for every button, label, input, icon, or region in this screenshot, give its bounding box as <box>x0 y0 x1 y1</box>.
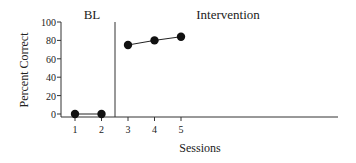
x-axis-title: Sessions <box>179 141 221 155</box>
y-ticks: 020406080100 <box>41 17 61 120</box>
y-tick-label: 60 <box>46 54 56 65</box>
y-tick-label: 0 <box>51 109 56 120</box>
data-point <box>177 33 185 41</box>
phase-label-intervention: Intervention <box>196 7 260 22</box>
data-point <box>97 110 105 118</box>
y-tick-label: 20 <box>46 91 56 102</box>
x-tick-label: 5 <box>179 124 184 135</box>
data-point <box>150 36 158 44</box>
y-axis-title: Percent Correct <box>17 32 31 108</box>
y-tick-label: 40 <box>46 72 56 83</box>
x-tick-label: 1 <box>73 124 78 135</box>
phase-label-baseline: BL <box>84 7 101 22</box>
data-series <box>71 33 185 119</box>
x-ticks: 12345 <box>73 117 184 135</box>
x-tick-label: 3 <box>126 124 131 135</box>
y-tick-label: 100 <box>41 17 56 28</box>
y-tick-label: 80 <box>46 35 56 46</box>
data-point <box>71 110 79 118</box>
x-tick-label: 2 <box>99 124 104 135</box>
data-point <box>124 41 132 49</box>
x-tick-label: 4 <box>152 124 157 135</box>
chart-canvas: 020406080100 12345 BL Intervention Sessi… <box>0 0 356 163</box>
